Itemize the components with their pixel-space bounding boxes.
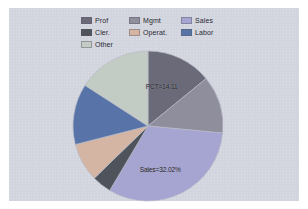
legend-item-prof[interactable]: Prof	[81, 15, 129, 26]
legend-item-label: Sales	[195, 15, 213, 26]
legend-item-sales[interactable]: Sales	[181, 15, 233, 26]
legend-item-other[interactable]: Other	[81, 39, 129, 50]
chart-figure: ProfMgmtSalesCler.Operat.LaborOther PCT=…	[9, 8, 299, 201]
legend-item-label: Operat.	[143, 27, 167, 38]
legend-swatch-icon	[181, 17, 192, 24]
legend-item-labor[interactable]: Labor	[181, 27, 233, 38]
pie-data-label: Sales=32.02%	[140, 165, 181, 172]
legend-item-label: Mgmt	[143, 15, 161, 26]
legend-swatch-icon	[81, 41, 92, 48]
chart-legend: ProfMgmtSalesCler.Operat.LaborOther	[81, 15, 241, 50]
legend-item-cler[interactable]: Cler.	[81, 27, 129, 38]
legend-item-label: Labor	[195, 27, 213, 38]
legend-item-label: Cler.	[95, 27, 110, 38]
legend-swatch-icon	[81, 29, 92, 36]
legend-swatch-icon	[81, 17, 92, 24]
legend-swatch-icon	[129, 29, 140, 36]
pie-svg	[72, 50, 224, 202]
legend-item-label: Other	[95, 39, 113, 50]
legend-item-operat[interactable]: Operat.	[129, 27, 181, 38]
pie-chart: PCT=14.11Sales=32.02%	[72, 50, 224, 202]
legend-item-mgmt[interactable]: Mgmt	[129, 15, 181, 26]
pie-data-label: PCT=14.11	[146, 83, 178, 90]
legend-swatch-icon	[129, 17, 140, 24]
legend-item-label: Prof	[95, 15, 108, 26]
legend-swatch-icon	[181, 29, 192, 36]
